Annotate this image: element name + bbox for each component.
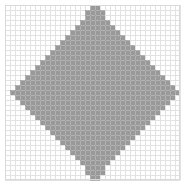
- figure-canvas: [0, 0, 185, 187]
- grid-diamond-graphic: [0, 0, 185, 187]
- plot-area: [0, 0, 185, 187]
